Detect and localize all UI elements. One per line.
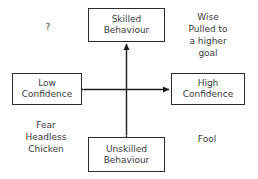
node-skilled-behaviour-label: Skilled Behaviour xyxy=(104,14,150,36)
annotation-bottom-left: Fear Headless Chicken xyxy=(8,119,84,155)
node-unskilled-behaviour[interactable]: Unskilled Behaviour xyxy=(88,137,165,172)
annotation-top-left: ? xyxy=(18,21,78,33)
annotation-bottom-right: Fool xyxy=(176,133,238,145)
node-low-confidence-label: Low Confidence xyxy=(22,78,73,100)
node-low-confidence[interactable]: Low Confidence xyxy=(12,73,82,105)
node-unskilled-behaviour-label: Unskilled Behaviour xyxy=(104,144,150,166)
node-high-confidence[interactable]: High Confidence xyxy=(171,73,245,105)
diagram-canvas: Skilled Behaviour Low Confidence High Co… xyxy=(0,0,258,179)
node-skilled-behaviour[interactable]: Skilled Behaviour xyxy=(88,8,165,42)
annotation-top-right: Wise Pulled to a higher goal xyxy=(168,11,248,59)
node-high-confidence-label: High Confidence xyxy=(183,78,234,100)
